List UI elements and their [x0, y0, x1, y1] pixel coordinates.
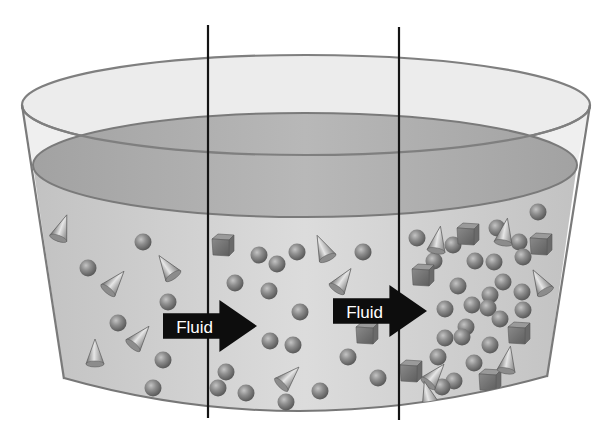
cube-particle — [479, 369, 501, 391]
sphere-particle — [145, 380, 162, 397]
sphere-particle — [251, 247, 268, 264]
sphere-particle — [262, 333, 279, 350]
sphere-particle — [495, 274, 512, 291]
sphere-particle — [292, 304, 309, 321]
sphere-particle — [464, 297, 481, 314]
fluid-label: Fluid — [176, 318, 213, 337]
sphere-particle — [269, 256, 286, 273]
sphere-particle — [515, 249, 532, 266]
sphere-particle — [511, 234, 528, 251]
sphere-particle — [514, 284, 531, 301]
sphere-particle — [355, 244, 372, 261]
sphere-particle — [210, 380, 227, 397]
sphere-particle — [437, 301, 454, 318]
sphere-particle — [409, 230, 426, 247]
fluid-surface — [33, 113, 577, 217]
cube-particle — [356, 322, 378, 344]
sphere-particle — [312, 383, 329, 400]
cube-particle — [530, 233, 552, 255]
sphere-particle — [437, 330, 454, 347]
sphere-particle — [80, 260, 97, 277]
sphere-particle — [238, 385, 255, 402]
sphere-particle — [218, 364, 235, 381]
sphere-particle — [160, 294, 177, 311]
sphere-particle — [340, 349, 357, 366]
sphere-particle — [486, 254, 503, 271]
sphere-particle — [285, 337, 302, 354]
cube-particle — [412, 264, 434, 286]
sphere-particle — [530, 204, 547, 221]
fluid-label: Fluid — [346, 303, 383, 322]
sphere-particle — [370, 370, 387, 387]
cube-particle — [508, 322, 530, 344]
sphere-particle — [278, 394, 295, 411]
sphere-particle — [454, 329, 471, 346]
sphere-particle — [492, 311, 509, 328]
fluid-flow-diagram: FluidFluid — [0, 0, 613, 443]
sphere-particle — [482, 337, 499, 354]
cube-particle — [400, 360, 422, 382]
sphere-particle — [450, 278, 467, 295]
cube-particle — [457, 223, 479, 245]
sphere-particle — [467, 253, 484, 270]
sphere-particle — [466, 355, 483, 372]
sphere-particle — [110, 315, 127, 332]
cube-particle — [212, 234, 234, 256]
sphere-particle — [227, 275, 244, 292]
sphere-particle — [430, 349, 447, 366]
sphere-particle — [289, 244, 306, 261]
sphere-particle — [515, 302, 532, 319]
sphere-particle — [261, 283, 278, 300]
sphere-particle — [155, 352, 172, 369]
sphere-particle — [135, 234, 152, 251]
